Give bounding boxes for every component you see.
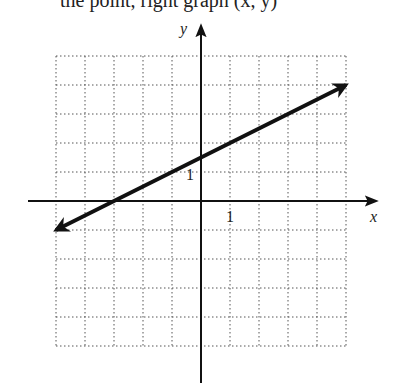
coordinate-plane: x y 1 1 xyxy=(0,0,400,386)
y-axis-label: y xyxy=(178,20,188,38)
x-tick-label: 1 xyxy=(226,208,234,225)
x-axis-label: x xyxy=(369,208,377,225)
y-tick-label: 1 xyxy=(186,166,194,183)
